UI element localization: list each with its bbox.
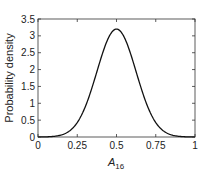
y-axis-label: Probability density <box>3 33 15 123</box>
x-tick-label: 0 <box>35 140 41 151</box>
x-axis-label: A16 <box>107 156 125 171</box>
y-tick-label: 1 <box>29 98 35 109</box>
density-curve <box>38 29 195 137</box>
x-axis: 00.250.50.751 <box>35 19 198 151</box>
density-chart: 00.511.522.533.5 00.250.50.751 Probabili… <box>0 0 204 174</box>
y-tick-label: 2 <box>29 64 35 75</box>
plot-frame <box>38 19 195 137</box>
y-tick-label: 0.5 <box>21 115 35 126</box>
x-tick-label: 0.75 <box>146 140 166 151</box>
plot-area <box>38 19 195 137</box>
x-tick-label: 0.5 <box>110 140 124 151</box>
y-tick-label: 1.5 <box>21 81 35 92</box>
y-axis: 00.511.522.533.5 <box>21 14 195 143</box>
y-tick-label: 3.5 <box>21 14 35 25</box>
y-tick-label: 3 <box>29 30 35 41</box>
x-tick-label: 1 <box>192 140 198 151</box>
y-tick-label: 2.5 <box>21 47 35 58</box>
x-tick-label: 0.25 <box>68 140 88 151</box>
